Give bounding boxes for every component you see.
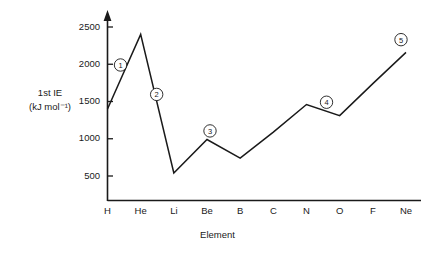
data-series-line [108, 34, 407, 173]
annotation-marker-5: 5 [395, 33, 407, 45]
y-axis-tick-label: 2000 [55, 58, 100, 69]
y-axis-tick-label: 1000 [55, 132, 100, 143]
ionisation-energy-chart: 12345 1st IE (kJ mol⁻¹) 5001000150020002… [0, 0, 435, 253]
annotation-marker-3: 3 [204, 125, 216, 137]
annotation-number: 3 [208, 127, 212, 136]
annotation-markers-group: 12345 [114, 33, 407, 137]
annotation-number: 1 [118, 61, 122, 70]
x-axis-tick-label: Ne [386, 205, 426, 216]
annotation-marker-4: 4 [320, 96, 332, 108]
axes-group [104, 10, 421, 201]
annotation-marker-2: 2 [150, 88, 162, 100]
x-axis-title: Element [0, 229, 435, 240]
y-axis-tick-label: 500 [55, 170, 100, 181]
y-axis-arrowhead [104, 10, 112, 21]
y-axis-tick-label: 1500 [55, 95, 100, 106]
annotation-number: 4 [324, 98, 328, 107]
y-axis-tick-label: 2500 [55, 21, 100, 32]
annotation-number: 5 [399, 36, 403, 45]
annotation-number: 2 [155, 90, 159, 99]
annotation-marker-1: 1 [114, 59, 126, 71]
